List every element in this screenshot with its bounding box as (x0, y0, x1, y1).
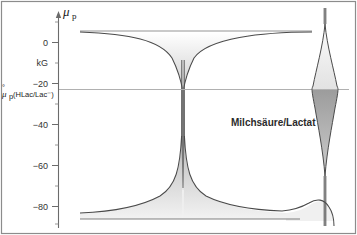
lower-band-group (80, 136, 334, 226)
y-axis-arrow-icon (56, 11, 61, 18)
species-annotation: Milchsäure/Lactat (231, 117, 316, 128)
upper-band-group (80, 31, 312, 92)
y-axis (52, 11, 61, 228)
lower-band-right-fill (183, 140, 286, 219)
y-tick-label-minus20: −20 (33, 79, 48, 89)
upper-band-right-fill (183, 32, 312, 90)
reference-label-ring-icon: ° (2, 83, 5, 92)
right-spindle-upper-fill (312, 24, 338, 90)
right-spindle-group (312, 8, 338, 226)
y-tick-label-minus40: −40 (33, 120, 48, 130)
upper-band-left-fill (80, 32, 183, 90)
y-tick-label-minus60: −60 (33, 161, 48, 171)
chemical-potential-diagram: 0 −20 −40 −60 −80 kG μ p μ ° p (HLac/Lac… (0, 0, 357, 235)
y-tick-label-0: 0 (43, 38, 48, 48)
y-axis-symbol: μ (62, 4, 70, 19)
y-axis-unit-label: kG (36, 58, 48, 68)
y-tick-label-minus80: −80 (33, 202, 48, 212)
right-spindle-stem-top (324, 8, 326, 24)
right-spindle-lower-fill (312, 90, 338, 177)
figure-svg: 0 −20 −40 −60 −80 kG μ p μ ° p (HLac/Lac… (0, 0, 357, 235)
y-axis-symbol-subscript: p (72, 11, 77, 21)
reference-label-species: (HLac/Lac⁻) (13, 90, 54, 99)
lower-band-left-fill (80, 140, 183, 219)
